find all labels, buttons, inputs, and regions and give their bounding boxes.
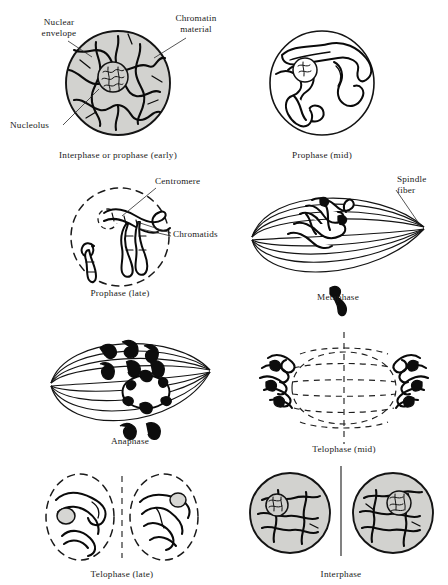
chromatin-material-label-line2: material bbox=[180, 24, 212, 34]
panel-telophase-mid: Telophase (mid) bbox=[260, 332, 428, 454]
nucleolus bbox=[266, 494, 288, 516]
nucleolus bbox=[387, 491, 411, 515]
panel-caption: Anaphase bbox=[111, 436, 149, 446]
spindle-fiber-leader-line bbox=[396, 190, 420, 225]
panel-caption: Telophase (late) bbox=[91, 569, 154, 579]
nucleolus bbox=[98, 62, 128, 92]
daughter-cell-right bbox=[353, 473, 433, 553]
nuclear-envelope-label-line1: Nuclear bbox=[44, 17, 74, 27]
daughter-cell-left bbox=[250, 473, 330, 553]
nuclear-envelope-shape-dashed bbox=[46, 474, 114, 560]
panel-caption: Prophase (late) bbox=[90, 288, 149, 298]
annotation-chromatin-material: Chromatin material bbox=[154, 13, 217, 58]
nucleolus bbox=[293, 58, 317, 82]
telophase-chromosome-mass-left bbox=[260, 355, 294, 408]
panel-prophase-mid: Prophase (mid) bbox=[270, 31, 374, 160]
chromatin-material-leader-line bbox=[154, 38, 186, 58]
mitosis-figure: Interphase or prophase (early) Nuclear e… bbox=[0, 0, 448, 585]
chromatids-label: Chromatids bbox=[173, 229, 218, 239]
nuclear-envelope-label-line2: envelope bbox=[42, 28, 77, 38]
panel-prophase-late: Prophase (late) bbox=[71, 188, 170, 298]
chromatin-material-label-line1: Chromatin bbox=[175, 13, 216, 23]
annotation-chromatids: Chromatids bbox=[137, 222, 218, 239]
panel-interphase: Interphase bbox=[250, 466, 433, 579]
nuclear-envelope-shape-dashed bbox=[71, 188, 169, 286]
panel-caption: Metaphase bbox=[317, 292, 359, 302]
dashed-spindle-remnant bbox=[292, 332, 396, 444]
panel-caption: Prophase (mid) bbox=[292, 150, 352, 160]
centromere-label: Centromere bbox=[155, 176, 200, 186]
chromosomes-with-chromatids bbox=[82, 209, 170, 282]
panel-caption: Interphase bbox=[321, 569, 362, 579]
daughter-cell-right bbox=[130, 474, 198, 560]
daughter-cell-left bbox=[46, 474, 114, 560]
panel-interphase-early-prophase: Interphase or prophase (early) bbox=[59, 31, 177, 160]
spindle-fiber-label-line2: fiber bbox=[397, 185, 415, 195]
separating-chromosomes bbox=[100, 340, 171, 439]
mitosis-diagram-canvas: Interphase or prophase (early) Nuclear e… bbox=[0, 0, 448, 585]
panel-caption: Interphase or prophase (early) bbox=[59, 150, 177, 160]
panel-anaphase: Anaphase bbox=[51, 340, 210, 446]
panel-telophase-late: Telophase (late) bbox=[46, 474, 198, 579]
nucleolus-label: Nucleolus bbox=[10, 120, 49, 130]
spindle-fiber-label-line1: Spindle bbox=[397, 174, 426, 184]
panel-caption: Telophase (mid) bbox=[312, 444, 376, 454]
panel-metaphase: Metaphase bbox=[252, 197, 424, 315]
telophase-chromosome-mass-right bbox=[394, 355, 428, 408]
